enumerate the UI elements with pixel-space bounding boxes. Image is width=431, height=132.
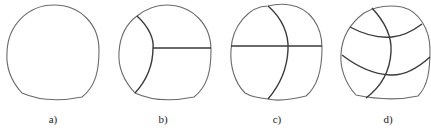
panel-a-shape xyxy=(7,5,99,100)
panel-b-outline xyxy=(119,5,211,100)
panel-c-outline xyxy=(231,4,322,100)
panel-c-shape xyxy=(231,4,322,100)
panel-c-curved-partition xyxy=(268,6,288,99)
panel-b-shape xyxy=(119,5,211,100)
panel-d-label: d) xyxy=(373,113,403,125)
panel-d-shape xyxy=(341,6,430,99)
panel-a-label: a) xyxy=(38,113,68,125)
panel-d-outline xyxy=(341,6,430,99)
panel-b-label: b) xyxy=(148,113,178,125)
panel-c-label: c) xyxy=(262,113,292,125)
panel-d-upper-partition xyxy=(350,24,422,37)
panel-b-curved-partition xyxy=(135,16,153,93)
panel-d-vertical-partition xyxy=(366,8,391,98)
panel-a-outline xyxy=(7,5,99,100)
